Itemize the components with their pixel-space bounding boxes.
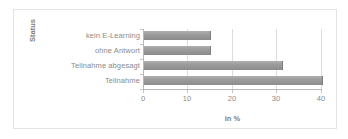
- x-axis-tick: [143, 90, 144, 93]
- bar-teilnahme-abgesagt: [144, 61, 283, 70]
- x-axis-tick: [276, 90, 277, 93]
- x-axis-tick: [321, 90, 322, 93]
- y-axis-tick-label: Teilnahme abgesagt: [32, 61, 140, 70]
- chart-screenshot: Status kein E-Learning ohne Antwort Teil…: [0, 0, 348, 139]
- x-axis-tick-label: 10: [172, 94, 202, 103]
- x-axis-tick-label: 30: [261, 94, 291, 103]
- x-axis-tick: [187, 90, 188, 93]
- y-axis-tick-label: ohne Antwort: [32, 46, 140, 55]
- bar-ohne-antwort: [144, 46, 211, 55]
- y-axis-tick-label: Teilnahme: [32, 76, 140, 85]
- x-axis-tick-label: 0: [128, 94, 158, 103]
- x-axis-title: in %: [143, 114, 322, 123]
- x-axis-tick-label: 20: [217, 94, 247, 103]
- chart-frame: Status kein E-Learning ohne Antwort Teil…: [13, 9, 337, 129]
- bar-teilnahme: [144, 76, 323, 85]
- x-axis-tick-label: 40: [306, 94, 336, 103]
- y-axis-tick-label: kein E-Learning: [32, 31, 140, 40]
- bar-kein-e-learning: [144, 31, 211, 40]
- x-axis-tick: [232, 90, 233, 93]
- y-axis-tick-labels: kein E-Learning ohne Antwort Teilnahme a…: [30, 29, 140, 90]
